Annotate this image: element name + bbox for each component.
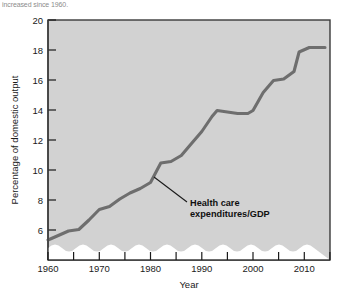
annotation-label-line2: expenditures/GDP (190, 209, 270, 219)
y-tick-label: 16 (32, 75, 43, 86)
y-tick-label: 8 (38, 195, 43, 206)
x-tick-label: 2000 (242, 263, 263, 274)
x-axis-title: Year (179, 279, 198, 290)
figure-container: increased since 1960. 20 18 16 14 12 10 … (0, 0, 347, 292)
health-care-gdp-line-chart: 20 18 16 14 12 10 8 6 Percentage of dome… (0, 0, 347, 292)
y-tick-label: 18 (32, 45, 43, 56)
x-tick-label: 1990 (191, 263, 212, 274)
y-tick-label: 12 (32, 135, 43, 146)
annotation-label-line1: Health care (190, 198, 240, 208)
x-axis-tick-labels: 1960 1970 1980 1990 2000 2010 (37, 263, 314, 274)
x-tick-label: 1980 (140, 263, 161, 274)
y-tick-label: 14 (32, 105, 43, 116)
plot-area-background (48, 20, 330, 260)
x-tick-label: 1960 (37, 263, 58, 274)
y-axis-title: Percentage of domestic output (9, 75, 20, 204)
y-axis-tick-labels: 20 18 16 14 12 10 8 6 (32, 15, 43, 236)
y-tick-label: 10 (32, 165, 43, 176)
y-tick-label: 20 (32, 15, 43, 26)
y-tick-label: 6 (38, 225, 43, 236)
x-tick-label: 1970 (89, 263, 110, 274)
x-tick-label: 2010 (294, 263, 315, 274)
